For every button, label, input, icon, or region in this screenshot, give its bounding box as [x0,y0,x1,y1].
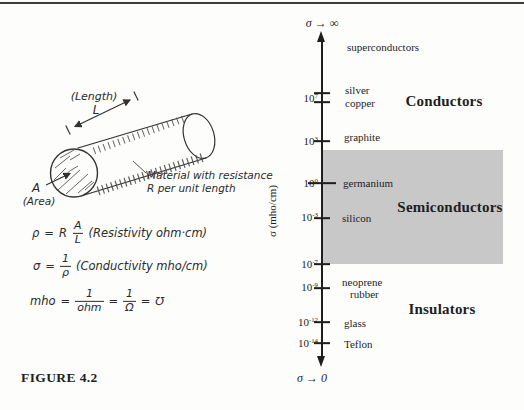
material-label: germanium [343,177,393,189]
tick-label: 10-14 [268,337,318,350]
sigma-infinity-label: σ → ∞ [306,16,338,31]
material-label: glass [344,317,366,329]
conductivity-scale-chart: σ → ∞ σ → 0 σ (mho/cm) 10710310010-310-7… [0,0,524,410]
tick-label: 10-3 [268,211,318,224]
region-label: Conductors [405,93,482,110]
region-label: Semiconductors [397,199,502,216]
material-label: copper [345,97,375,109]
axis-arrow-up-icon [317,31,325,42]
sigma-zero-label: σ → 0 [297,371,327,386]
material-label: silver [345,84,369,96]
sigma-axis [321,38,323,360]
tick-label: 10-9 [268,281,318,294]
material-label: neoprene [342,276,382,288]
material-label: superconductors [347,41,419,53]
figure-page: (Length) L A (Area) Material with resist… [0,0,524,410]
axis-arrow-down-icon [317,356,325,367]
tick-label: 10-12 [268,316,318,329]
tick-label: 103 [268,135,318,148]
material-label: Teflon [344,338,373,350]
tick-label: 107 [268,92,318,105]
tick-label: 100 [268,177,318,190]
material-label: graphite [344,131,380,143]
region-label: Insulators [408,301,475,318]
tick-label: 10-7 [268,258,318,271]
material-label: rubber [350,288,379,300]
material-label: silicon [342,212,371,224]
